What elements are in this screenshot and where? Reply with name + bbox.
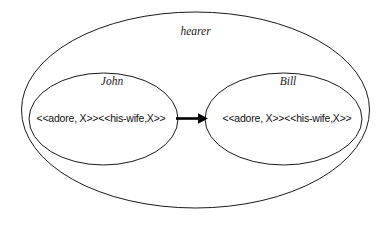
inner-ellipse-label-john: John <box>101 75 124 87</box>
outer-ellipse-hearer[interactable] <box>22 12 370 208</box>
inner-ellipse-label-bill: Bill <box>280 75 297 87</box>
set-diagram: hearer John Bill <<adore, X>><<his-wife,… <box>0 0 391 226</box>
diagram-canvas: hearer John Bill <<adore, X>><<his-wife,… <box>0 0 391 226</box>
john-to-bill-arrow-head <box>198 113 208 123</box>
outer-ellipse-label-hearer: hearer <box>180 25 211 37</box>
formula-bill: <<adore, X>><<his-wife,X>> <box>222 112 351 124</box>
formula-john: <<adore, X>><<his-wife,X>> <box>36 112 165 124</box>
